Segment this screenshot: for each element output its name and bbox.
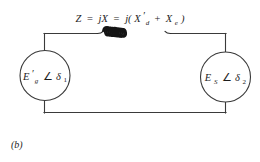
equation-rhs-close: )	[180, 13, 185, 25]
right-source-angle-subscript: 2	[243, 78, 247, 86]
equation-equals-2: =	[114, 13, 120, 24]
left-source-angle-base: δ	[56, 71, 62, 82]
right-source-base: E	[204, 72, 212, 83]
right-source-subscript: S	[214, 78, 218, 86]
equation-lhs-symbol: Z	[76, 13, 82, 24]
equation-term1-base: X	[133, 13, 141, 24]
impedance-equation: Z = jX = j( X ′ d + X e )	[76, 10, 185, 27]
right-source-angle-base: δ	[235, 72, 241, 83]
equation-term1-subscript: d	[146, 19, 150, 27]
left-source-angle-icon: ∠	[43, 70, 53, 82]
equation-rhs-open: j(	[123, 13, 133, 25]
circuit-diagram-svg: Z = jX = j( X ′ d + X e ) E ′ g ∠ δ 1 E …	[0, 0, 260, 162]
equation-term2-base: X	[165, 13, 173, 24]
circuit-figure: Z = jX = j( X ′ d + X e ) E ′ g ∠ δ 1 E …	[0, 0, 260, 162]
equation-middle-term: jX	[97, 13, 109, 24]
left-source-subscript: g	[35, 77, 39, 85]
equation-equals-1: =	[87, 13, 93, 24]
coil-lead-left	[97, 31, 103, 33]
inductor-coil	[103, 27, 126, 37]
left-source-base: E	[22, 71, 30, 82]
left-source-angle-subscript: 1	[64, 76, 68, 84]
coil-lead-right	[165, 31, 171, 33]
equation-plus: +	[155, 13, 161, 24]
figure-caption: (b)	[11, 139, 23, 151]
equation-term2-subscript: e	[175, 19, 178, 27]
right-source-angle-icon: ∠	[222, 71, 232, 83]
